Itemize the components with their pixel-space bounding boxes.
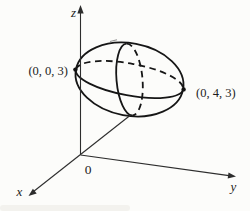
scan-smudge bbox=[0, 205, 130, 211]
right-point-label: (0, 4, 3) bbox=[196, 86, 236, 100]
meridian-front-curve bbox=[113, 44, 132, 117]
left-point-label: (0, 0, 3) bbox=[28, 64, 68, 78]
sphere-body-group bbox=[69, 34, 189, 125]
origin-label: 0 bbox=[85, 162, 92, 177]
meridian-back-curve-dashed bbox=[126, 43, 145, 116]
y-axis-label: y bbox=[229, 179, 237, 194]
stray-dash-mark bbox=[110, 40, 117, 42]
x-axis-label: x bbox=[16, 184, 23, 199]
y-axis-arrowhead bbox=[228, 172, 236, 178]
sphere-coordinate-figure: z x y 0 (0, 0, 3) (0, 4, 3) bbox=[0, 0, 250, 211]
left-endpoint-dot bbox=[73, 67, 77, 71]
right-endpoint-dot bbox=[181, 87, 185, 91]
sphere-outline bbox=[69, 34, 189, 125]
z-axis-label: z bbox=[70, 5, 76, 20]
figure-canvas: z x y 0 (0, 0, 3) (0, 4, 3) bbox=[0, 0, 250, 211]
y-axis-line bbox=[81, 155, 230, 176]
z-axis-arrowhead bbox=[77, 5, 83, 14]
sphere-meridian-group bbox=[113, 43, 145, 117]
